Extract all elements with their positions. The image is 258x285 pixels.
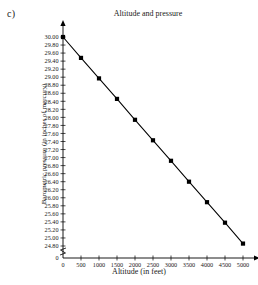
y-tick-label: 28.60 — [45, 89, 59, 96]
y-tick-label: 25.60 — [45, 210, 59, 217]
y-tick-label: 27.20 — [45, 146, 59, 153]
x-tick-label: 3500 — [183, 261, 195, 268]
plot-area: 24.8025.0025.2025.4025.6025.8026.0026.20… — [0, 0, 258, 285]
data-point — [169, 159, 173, 163]
x-tick-label: 4000 — [201, 261, 213, 268]
y-axis-arrow — [60, 20, 65, 26]
y-tick-label: 27.80 — [45, 122, 59, 129]
y-tick-label: 25.00 — [45, 234, 59, 241]
y-tick-label: 28.80 — [45, 81, 59, 88]
x-axis-ticks: 0500100015002000250030003500400045005000 — [61, 256, 249, 269]
x-tick-label: 1500 — [111, 261, 123, 268]
y-tick-label: 29.20 — [45, 65, 59, 72]
x-tick-label: 2000 — [129, 261, 141, 268]
data-point — [61, 35, 65, 39]
y-axis-break — [60, 248, 66, 255]
y-origin-label: 0 — [55, 254, 58, 261]
y-tick-label: 24.80 — [45, 242, 59, 249]
y-axis-ticks: 24.8025.0025.2025.4025.6025.8026.0026.20… — [45, 33, 66, 249]
y-tick-label: 28.40 — [45, 98, 59, 105]
y-tick-label: 25.20 — [45, 226, 59, 233]
data-point — [133, 118, 137, 122]
data-point — [115, 97, 119, 101]
y-tick-label: 26.40 — [45, 178, 59, 185]
y-tick-label: 25.80 — [45, 202, 59, 209]
y-tick-label: 30.00 — [45, 33, 59, 40]
y-tick-label: 26.20 — [45, 186, 59, 193]
x-tick-label: 1000 — [93, 261, 105, 268]
y-tick-label: 25.40 — [45, 218, 59, 225]
y-tick-label: 29.00 — [45, 73, 59, 80]
data-point — [241, 241, 245, 245]
x-axis-arrow — [254, 255, 258, 260]
data-point — [187, 180, 191, 184]
y-tick-label: 26.60 — [45, 170, 59, 177]
y-tick-label: 26.00 — [45, 194, 59, 201]
y-tick-label: 27.40 — [45, 138, 59, 145]
x-tick-label: 500 — [76, 261, 85, 268]
data-point — [223, 221, 227, 225]
data-point — [79, 56, 83, 60]
data-point — [205, 200, 209, 204]
y-tick-label: 29.60 — [45, 49, 59, 56]
x-tick-label: 4500 — [219, 261, 231, 268]
y-tick-label: 27.00 — [45, 154, 59, 161]
y-tick-label: 28.20 — [45, 106, 59, 113]
y-tick-label: 29.40 — [45, 57, 59, 64]
y-tick-label: 29.80 — [45, 41, 59, 48]
x-tick-label: 3000 — [165, 261, 177, 268]
x-tick-label: 5000 — [237, 261, 249, 268]
x-tick-label: 2500 — [147, 261, 159, 268]
axis-lines — [60, 20, 258, 261]
y-tick-label: 28.00 — [45, 114, 59, 121]
chart-figure: c) Altitude and pressure Barometric pres… — [0, 0, 258, 285]
data-point — [151, 138, 155, 142]
y-tick-label: 27.60 — [45, 130, 59, 137]
y-tick-label: 26.80 — [45, 162, 59, 169]
data-point — [97, 76, 101, 80]
x-tick-label: 0 — [61, 261, 64, 268]
